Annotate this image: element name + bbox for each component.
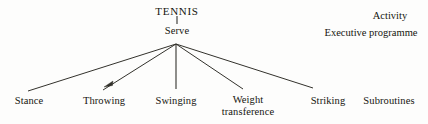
diagram-canvas: TENNIS Serve Stance Throwing Swinging We… — [0, 0, 428, 124]
node-tennis: TENNIS — [155, 6, 198, 17]
throwing-arrowhead-icon — [104, 81, 113, 87]
edge-serve-to-throwing — [103, 44, 176, 90]
edge-serve-to-striking — [176, 44, 313, 88]
annotation-activity: Activity — [373, 10, 407, 21]
node-weight-transference-line2: transference — [222, 105, 275, 117]
node-throwing: Throwing — [83, 95, 125, 106]
edge-serve-to-stance — [28, 44, 176, 91]
node-striking: Striking — [311, 95, 346, 106]
node-weight-transference: Weight transference — [222, 94, 275, 117]
node-subroutines: Subroutines — [363, 95, 414, 106]
node-weight-transference-line1: Weight — [222, 94, 275, 106]
node-swinging: Swinging — [155, 95, 196, 106]
node-stance: Stance — [15, 95, 44, 106]
edge-serve-to-weight-transference — [176, 44, 243, 89]
node-serve: Serve — [165, 25, 189, 36]
annotation-executive-programme: Executive programme — [324, 27, 417, 38]
